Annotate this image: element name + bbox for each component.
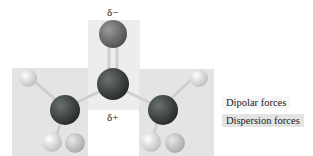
hydrogen-atom [165,133,185,153]
acetone-molecule-model [0,0,313,156]
partial-positive-label: δ+ [107,111,118,123]
oxygen-atom [99,20,127,48]
hydrogen-atom [141,132,161,152]
hydrogen-atom [190,69,208,87]
hydrogen-atom [42,132,62,152]
legend-dipolar-forces: Dipolar forces [222,96,290,109]
methyl-carbon-right [148,95,178,125]
hydrogen-atom [65,133,85,153]
partial-negative-label: δ− [107,6,118,18]
hydrogen-atom [19,69,37,87]
methyl-carbon-left [50,95,80,125]
legend-dispersion-forces: Dispersion forces [222,114,304,127]
carbonyl-carbon-atom [97,68,129,100]
